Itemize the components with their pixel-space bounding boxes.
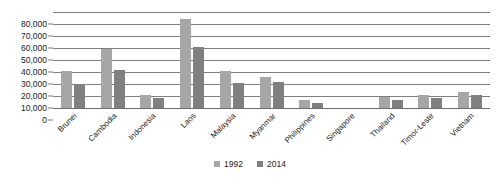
y-axis-tick-label: 10,000 <box>0 104 47 113</box>
x-axis-label-cell: Laos <box>172 110 212 156</box>
bar <box>193 47 204 108</box>
x-axis-tick-label: Laos <box>180 112 198 130</box>
legend-label: 2014 <box>267 160 286 169</box>
x-axis-tick-label: Brunei <box>57 112 80 135</box>
x-axis-tick-label: Thailand <box>369 112 397 140</box>
x-axis-label-cell: Vietnam <box>450 110 490 156</box>
y-axis-tick-label: 80,000 <box>0 20 47 29</box>
legend-swatch-icon <box>214 161 220 167</box>
bar-groups <box>53 12 490 108</box>
x-axis-label-cell: Timor-Leste <box>411 110 451 156</box>
bar <box>180 19 191 108</box>
x-axis-label-cell: Cambodia <box>93 110 133 156</box>
bar <box>379 97 390 108</box>
bar <box>273 82 284 108</box>
bar <box>140 95 151 108</box>
y-axis-tick-label: 60,000 <box>0 44 47 53</box>
bar <box>233 83 244 108</box>
y-axis-tick-label: 50,000 <box>0 56 47 65</box>
plot-area <box>53 12 490 108</box>
x-axis-label-cell: Indonesia <box>132 110 172 156</box>
legend-item: 2014 <box>257 160 286 169</box>
y-axis: 010,00020,00030,00040,00050,00060,00070,… <box>0 12 47 108</box>
bar-group <box>53 12 93 108</box>
bar-group <box>93 12 133 108</box>
legend-swatch-icon <box>257 161 263 167</box>
legend-label: 1992 <box>224 160 243 169</box>
legend-item: 1992 <box>214 160 243 169</box>
bar <box>260 77 271 108</box>
x-axis-tick-label: Indonesia <box>128 112 159 143</box>
bar <box>431 98 442 108</box>
bar-chart: 010,00020,00030,00040,00050,00060,00070,… <box>0 0 500 184</box>
gridline <box>53 108 490 109</box>
y-axis-tick-label: 40,000 <box>0 68 47 77</box>
x-axis: BruneiCambodiaIndonesiaLaosMalaysiaMyanm… <box>53 110 490 156</box>
bar-group <box>212 12 252 108</box>
bar <box>114 70 125 108</box>
x-axis-tick-label: Myanmar <box>248 112 278 142</box>
bar <box>312 103 323 108</box>
bar-group <box>252 12 292 108</box>
y-axis-tick-label: 20,000 <box>0 92 47 101</box>
x-axis-label-cell: Singapore <box>331 110 371 156</box>
y-axis-tick-label: 30,000 <box>0 80 47 89</box>
bar <box>153 98 164 108</box>
y-axis-tick-label: 70,000 <box>0 32 47 41</box>
x-axis-tick-label: Malaysia <box>209 112 238 141</box>
x-axis-label-cell: Myanmar <box>252 110 292 156</box>
x-axis-label-cell: Malaysia <box>212 110 252 156</box>
x-axis-label-cell: Brunei <box>53 110 93 156</box>
bar <box>299 100 310 108</box>
x-axis-tick-label: Vietnam <box>450 112 477 139</box>
bar-group <box>450 12 490 108</box>
bar-group <box>371 12 411 108</box>
bar <box>61 71 72 108</box>
bar-group <box>331 12 371 108</box>
bar <box>101 49 112 108</box>
bar-group <box>132 12 172 108</box>
bar <box>418 95 429 108</box>
bar-group <box>411 12 451 108</box>
bar <box>392 100 403 108</box>
bar-group <box>172 12 212 108</box>
x-axis-label-cell: Philippines <box>291 110 331 156</box>
bar <box>458 92 469 108</box>
bar <box>220 71 231 108</box>
bar <box>74 84 85 108</box>
y-axis-tick-label: 0 <box>0 116 47 125</box>
bar <box>471 95 482 108</box>
chart-legend: 19922014 <box>0 160 500 169</box>
x-axis-label-cell: Thailand <box>371 110 411 156</box>
bar-group <box>291 12 331 108</box>
